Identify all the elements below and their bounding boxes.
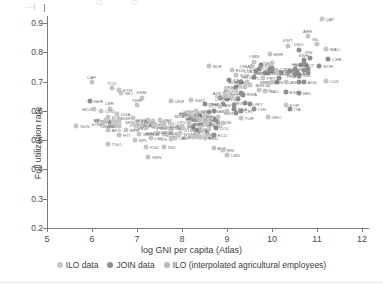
data-point[interactable]	[297, 90, 302, 95]
data-point-label: ZWE	[130, 122, 140, 127]
data-point[interactable]	[162, 145, 167, 150]
data-point[interactable]	[144, 144, 149, 149]
data-point-label: NPL	[139, 138, 148, 143]
data-point-label: PNG	[157, 126, 167, 131]
data-point[interactable]	[270, 80, 275, 85]
data-point[interactable]	[261, 76, 266, 81]
data-point[interactable]	[218, 103, 223, 108]
data-point-label: MLD	[181, 134, 191, 139]
data-point-label: BLR	[213, 64, 222, 69]
data-point[interactable]	[135, 103, 140, 108]
data-point[interactable]	[117, 124, 122, 129]
data-point[interactable]	[146, 154, 151, 159]
data-point[interactable]	[189, 111, 194, 116]
x-tick-label: 5	[44, 234, 49, 244]
data-point-label: LBN	[231, 152, 240, 157]
data-point[interactable]	[263, 88, 268, 93]
data-point[interactable]	[270, 60, 275, 65]
data-point[interactable]	[267, 51, 272, 56]
data-point[interactable]	[238, 108, 243, 113]
data-point[interactable]	[245, 79, 250, 84]
data-point[interactable]	[243, 84, 248, 89]
data-point[interactable]	[191, 134, 196, 139]
data-point-label: KNA	[235, 79, 244, 84]
data-point[interactable]	[270, 65, 275, 70]
data-point-label: USA	[296, 70, 305, 75]
data-point[interactable]	[301, 79, 306, 84]
data-point-label: ITA	[294, 107, 301, 112]
data-point[interactable]	[207, 64, 212, 69]
data-point[interactable]	[211, 146, 216, 151]
data-point-label: OMA	[240, 64, 250, 69]
data-point[interactable]	[283, 79, 288, 84]
data-point-label: KHM	[137, 90, 147, 95]
data-point[interactable]	[225, 93, 230, 98]
data-point[interactable]	[306, 34, 311, 39]
data-point[interactable]	[175, 132, 180, 137]
data-point[interactable]	[198, 134, 203, 139]
data-point[interactable]	[105, 141, 110, 146]
data-point[interactable]	[130, 116, 135, 121]
data-point[interactable]	[168, 98, 173, 103]
legend-item-iloag[interactable]: ILO (interpolated agricultural employees…	[164, 260, 327, 270]
data-point[interactable]	[238, 91, 243, 96]
data-point[interactable]	[324, 46, 329, 51]
data-point-label: QTR	[260, 60, 270, 65]
y-tick-label: 0.9	[31, 18, 43, 28]
x-tick-label: 11	[312, 234, 321, 244]
data-point[interactable]	[74, 124, 79, 129]
data-point[interactable]	[117, 132, 122, 137]
data-point[interactable]	[99, 108, 104, 113]
data-point[interactable]	[90, 80, 95, 85]
data-point[interactable]	[87, 98, 92, 103]
x-axis-label: log GNI per capita (Atlas)	[0, 245, 383, 255]
data-point[interactable]	[220, 120, 225, 125]
data-point[interactable]	[315, 42, 320, 47]
data-point[interactable]	[202, 101, 207, 106]
data-point-label: BWA	[206, 114, 216, 119]
data-point-label: FRA	[287, 74, 296, 79]
data-point[interactable]	[319, 16, 324, 21]
data-point-label: SDN	[80, 124, 90, 129]
data-point[interactable]	[234, 111, 239, 116]
data-point[interactable]	[229, 68, 234, 73]
data-point[interactable]	[238, 116, 243, 121]
data-point-label: UKR	[175, 98, 185, 103]
data-point[interactable]	[110, 86, 115, 91]
data-point[interactable]	[301, 62, 306, 67]
data-point[interactable]	[119, 90, 124, 95]
data-point-label: BEL	[303, 90, 312, 95]
data-point[interactable]	[243, 100, 248, 105]
data-point[interactable]	[186, 119, 191, 124]
data-point[interactable]	[216, 114, 221, 119]
data-point[interactable]	[265, 115, 270, 120]
data-point[interactable]	[254, 69, 259, 74]
data-point[interactable]	[220, 147, 225, 152]
data-point[interactable]	[285, 43, 290, 48]
data-point[interactable]	[202, 135, 207, 140]
data-point[interactable]	[231, 103, 236, 108]
bottom-divider	[0, 282, 383, 283]
data-point-label: CHL	[258, 107, 267, 112]
data-point[interactable]	[207, 127, 212, 132]
data-point[interactable]	[247, 102, 252, 107]
data-point[interactable]	[324, 78, 329, 83]
data-point[interactable]	[225, 109, 230, 114]
data-point[interactable]	[288, 107, 293, 112]
data-point[interactable]	[225, 152, 230, 157]
data-point[interactable]	[283, 89, 288, 94]
data-point[interactable]	[236, 97, 241, 102]
data-point[interactable]	[317, 64, 322, 69]
legend-item-join[interactable]: JOIN data	[107, 260, 154, 270]
data-point[interactable]	[306, 70, 311, 75]
data-point[interactable]	[132, 138, 137, 143]
data-point[interactable]	[137, 132, 142, 137]
data-point[interactable]	[92, 107, 97, 112]
data-point[interactable]	[189, 97, 194, 102]
data-point[interactable]	[153, 122, 158, 127]
data-point[interactable]	[229, 94, 234, 99]
data-point[interactable]	[326, 56, 331, 61]
data-point[interactable]	[265, 82, 270, 87]
legend-item-ilo[interactable]: ILO data	[57, 260, 99, 270]
data-point-label: HKG	[292, 62, 302, 67]
